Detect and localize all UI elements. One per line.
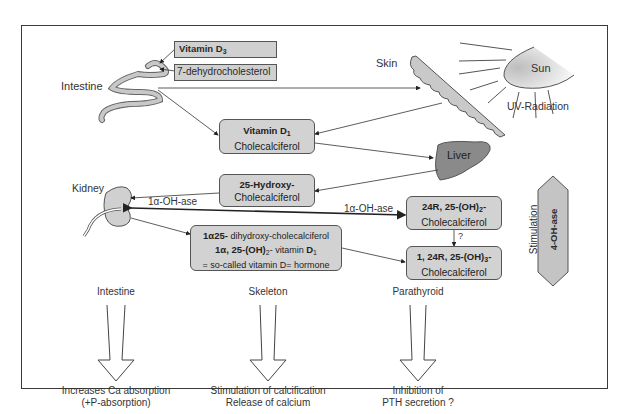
calcitriol-line-2: 1α, 25-(OH)2- vitamin D1 — [191, 243, 341, 259]
intestine-label: Intestine — [61, 80, 103, 92]
effect-skeleton: Stimulation of calcificationRelease of c… — [193, 385, 343, 409]
stimulation-label: Stimulation — [528, 195, 539, 265]
target-parathyroid-label: Parathyroid — [368, 286, 468, 297]
r24-title: 24R, 25-(OH)2- — [422, 201, 486, 212]
oh-ase-right-label: 1α-OH-ase — [344, 203, 393, 214]
vitamin-d1-box: Vitamin D1 Cholecalciferol — [219, 119, 315, 154]
calcitriol-box: 1α25- dihydroxy-cholecalciferol 1α, 25-(… — [190, 225, 342, 271]
hollow-arrows — [98, 305, 436, 381]
target-skeleton-label: Skeleton — [218, 286, 318, 297]
vitamin-d1-subtitle: Cholecalciferol — [234, 141, 300, 152]
vitamin-d3-text: Vitamin D — [179, 43, 223, 54]
dehydrocholesterol-box: 7-dehydrocholesterol — [174, 64, 277, 81]
calcitriol-line-1: 1α25- dihydroxy-cholecalciferol — [191, 229, 341, 243]
vitamin-d3-box: Vitamin D3 — [174, 41, 277, 58]
calcitriol-line-3: = so-called vitamin D= hormone — [191, 259, 341, 272]
trihydroxy-subtitle: Cholecalciferol — [421, 267, 487, 278]
uv-radiation-label: UV-Radiation — [507, 100, 569, 112]
vitamin-d1-title: Vitamin D1 — [243, 125, 291, 136]
kidney-icon — [84, 187, 131, 236]
effect-parathyroid: Inhibition ofPTH secretion ? — [343, 385, 493, 409]
trihydroxy-box: 1, 24R, 25-(OH)3- Cholecalciferol — [406, 246, 502, 280]
effect-intestine: Increases Ca absorption(+P-absorption) — [41, 385, 191, 409]
oh-ase-left-label: 1α-OH-ase — [148, 196, 197, 207]
intestine-icon — [101, 63, 166, 120]
hydroxy-subtitle: Cholecalciferol — [234, 192, 300, 203]
r24-dihydroxy-box: 24R, 25-(OH)2- Cholecalciferol — [406, 196, 502, 230]
trihydroxy-title: 1, 24R, 25-(OH)3- — [417, 251, 492, 262]
four-oh-ase-label: 4-OH-ase — [548, 195, 559, 265]
liver-label: Liver — [447, 149, 471, 161]
hydroxy-cholecalciferol-box: 25-Hydroxy- Cholecalciferol — [219, 174, 315, 207]
vitamin-d3-subscript: 3 — [223, 48, 227, 55]
skin-label: Skin — [376, 57, 397, 69]
sun-label: Sun — [531, 62, 551, 74]
question-mark-label: ? — [458, 231, 463, 241]
r24-subtitle: Cholecalciferol — [421, 217, 487, 228]
kidney-label: Kidney — [72, 182, 104, 194]
hydroxy-title: 25-Hydroxy- — [240, 179, 295, 190]
target-intestine-label: Intestine — [66, 286, 166, 297]
